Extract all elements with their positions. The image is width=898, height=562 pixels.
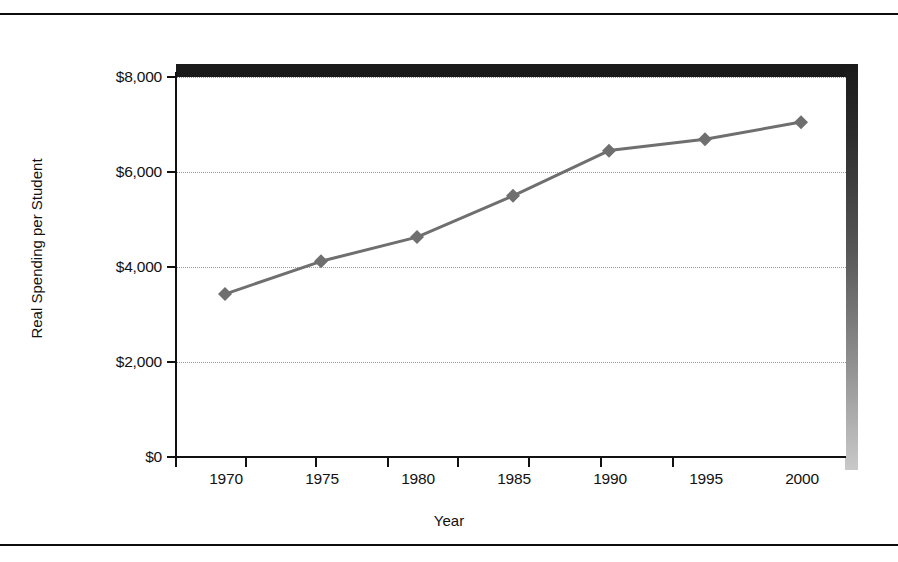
x-tick-mark-0	[175, 458, 177, 467]
y-tick-mark-6000	[167, 171, 177, 173]
x-axis-title: Year	[0, 512, 898, 529]
x-tick-label-1990: 1990	[570, 470, 650, 488]
x-axis-line	[168, 456, 846, 458]
y-tick-label-6000: $6,000	[70, 163, 162, 181]
y-tick-label-4000: $4,000	[70, 258, 162, 276]
x-tick-label-1975: 1975	[282, 470, 362, 488]
y-axis-title: Real Spending per Student	[28, 109, 45, 389]
x-tick-label-2000: 2000	[762, 470, 842, 488]
x-tick-label-1970: 1970	[186, 470, 266, 488]
y-tick-label-4000-wrap: $4,000	[62, 258, 162, 276]
y-tick-mark-2000	[167, 361, 177, 363]
gridline-8000	[177, 77, 846, 79]
plot-frame-right-bar	[845, 64, 858, 470]
y-tick-mark-8000	[167, 76, 177, 78]
x-tick-mark-5	[528, 458, 530, 467]
y-tick-label-8000: $8,000	[70, 68, 162, 86]
y-tick-mark-4000	[167, 266, 177, 268]
x-tick-label-1980: 1980	[378, 470, 458, 488]
x-tick-mark-6	[600, 458, 602, 467]
y-tick-label-2000-wrap: $2,000	[62, 353, 162, 371]
x-tick-mark-3	[387, 458, 389, 467]
page-rule-top	[0, 13, 898, 15]
gridline-2000	[177, 362, 846, 364]
x-tick-mark-2	[315, 458, 317, 467]
line-chart-figure: $8,000 $6,000 $4,000 $2,000 $0 1970 1975…	[0, 20, 898, 540]
gridline-4000	[177, 267, 846, 269]
x-tick-mark-4	[457, 458, 459, 467]
x-tick-mark-7	[672, 458, 674, 467]
x-tick-mark-1	[245, 458, 247, 467]
y-tick-label-2000: $2,000	[70, 353, 162, 371]
y-tick-label-0: $0	[70, 448, 162, 466]
y-tick-label-0-wrap: $0	[62, 448, 162, 466]
plot-frame-top-bar	[176, 64, 858, 77]
x-tick-label-1985: 1985	[474, 470, 554, 488]
page-rule-bottom	[0, 544, 898, 546]
y-tick-label-8000-wrap: $8,000	[62, 68, 162, 86]
y-tick-label-6000-wrap: $6,000	[62, 163, 162, 181]
gridline-6000	[177, 172, 846, 174]
x-tick-label-1995: 1995	[666, 470, 746, 488]
